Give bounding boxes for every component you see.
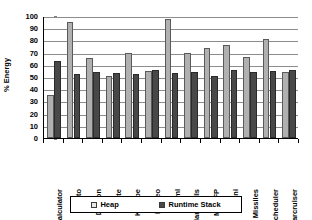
bar-runtime-stack [270,71,277,138]
bar-chart-figure: % Energy 0102030405060708090100 Calculat… [0,0,312,220]
legend-entry: Heap [91,200,118,209]
y-axis-tick-label: 70 [30,50,38,58]
y-axis-title: % Energy [2,40,11,110]
x-axis-label: Calculator [56,189,64,220]
bar-heap [145,71,152,138]
bar-group [201,17,221,138]
legend-entry: Runtime Stack [159,200,220,209]
x-axis-label: Scheduler [272,189,280,220]
bar-group [64,17,84,138]
bar-runtime-stack [172,73,179,138]
bar-group [44,17,64,138]
bar-runtime-stack [191,72,198,138]
y-axis-tick-labels: 0102030405060708090100 [14,17,40,139]
bar-heap [165,19,172,138]
y-axis-tick-label: 0 [34,135,38,143]
bar-runtime-stack [93,72,100,138]
bar-heap [86,58,93,138]
bar-heap [47,95,54,138]
y-axis-tick-label: 20 [30,111,38,119]
y-axis-tick-label: 40 [30,86,38,94]
bar-group [122,17,142,138]
chart-legend: HeapRuntime Stack [70,196,242,213]
bar-group [162,17,182,138]
legend-label: Runtime Stack [168,200,220,209]
bar-heap [282,72,289,138]
y-axis-tick-label: 90 [30,25,38,33]
legend-swatch-icon [159,202,165,208]
bar-runtime-stack [289,70,296,138]
x-axis-label: Starcruiser [291,189,299,220]
bar-group [279,17,299,138]
y-axis-tick-label: 30 [30,99,38,107]
x-axis-category-labels: CalculatorCryptoDragonEliteKshapeKvideoK… [43,143,298,191]
bar-group [181,17,201,138]
y-axis-tick-label: 100 [25,13,38,21]
y-axis-tick-label: 50 [30,74,38,82]
bar-runtime-stack [113,73,120,138]
bar-group [240,17,260,138]
bar-heap [243,57,250,138]
bar-runtime-stack [250,72,257,138]
bar-heap [263,39,270,138]
y-axis-tick-label: 80 [30,38,38,46]
bar-group [142,17,162,138]
bar-runtime-stack [231,70,238,138]
bar-heap [184,53,191,138]
x-axis-tick-mark [298,139,299,143]
bar-heap [223,45,230,138]
bar-heap [67,22,74,138]
bar-heap [106,76,113,138]
bar-group [260,17,280,138]
bar-runtime-stack [74,74,81,138]
bar-group [103,17,123,138]
plot-area [43,17,298,139]
bar-runtime-stack [133,74,140,138]
legend-swatch-icon [91,202,97,208]
y-axis-tick-label: 60 [30,62,38,70]
bar-runtime-stack [152,70,159,138]
bar-group [221,17,241,138]
y-axis-tick-label: 10 [30,123,38,131]
bar-runtime-stack [211,76,218,138]
bar-group [83,17,103,138]
legend-label: Heap [100,200,118,209]
bars-layer [44,17,298,138]
bar-heap [204,48,211,138]
bar-heap [125,53,132,138]
bar-runtime-stack [54,61,61,138]
x-axis-label: Missiles [252,189,260,218]
